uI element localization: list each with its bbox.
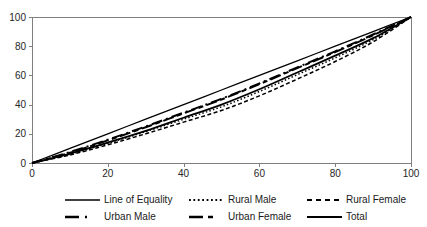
x-tick-label: 100 <box>403 168 420 179</box>
x-tick-label: 60 <box>254 168 266 179</box>
y-tick-label: 100 <box>9 12 26 23</box>
y-tick-label: 60 <box>15 70 27 81</box>
chart-legend: Line of EqualityRural MaleRural FemaleUr… <box>0 185 427 224</box>
series-line-line-of-equality <box>32 17 411 163</box>
legend-label: Line of Equality <box>104 193 172 207</box>
legend-marker-urban-male <box>64 212 101 222</box>
y-tick-label: 40 <box>15 99 27 110</box>
x-tick-label: 40 <box>178 168 190 179</box>
y-tick-label: 0 <box>20 158 26 169</box>
legend-label: Rural Female <box>346 193 406 207</box>
x-tick-label: 0 <box>29 168 35 179</box>
legend-item-urban-male: Urban Male <box>64 210 188 224</box>
legend-marker-total <box>306 212 343 222</box>
legend-marker-rural-female <box>306 195 343 205</box>
legend-item-rural-male: Rural Male <box>188 193 306 207</box>
legend-marker-line-of-equality <box>64 195 101 205</box>
legend-label: Rural Male <box>228 193 276 207</box>
y-tick-label: 80 <box>15 41 27 52</box>
x-tick-label: 80 <box>330 168 342 179</box>
legend-label: Total <box>346 210 367 224</box>
legend-marker-rural-male <box>188 195 225 205</box>
lorenz-chart-plot: 020406080100020406080100 <box>0 0 427 185</box>
legend-item-rural-female: Rural Female <box>306 193 427 207</box>
lorenz-curve-figure: 020406080100020406080100 Line of Equalit… <box>0 0 427 227</box>
y-tick-label: 20 <box>15 128 27 139</box>
x-tick-label: 20 <box>102 168 114 179</box>
legend-item-total: Total <box>306 210 427 224</box>
legend-label: Urban Male <box>104 210 156 224</box>
legend-item-line-of-equality: Line of Equality <box>64 193 188 207</box>
legend-item-urban-female: Urban Female <box>188 210 306 224</box>
legend-marker-urban-female <box>188 212 225 222</box>
legend-label: Urban Female <box>228 210 291 224</box>
